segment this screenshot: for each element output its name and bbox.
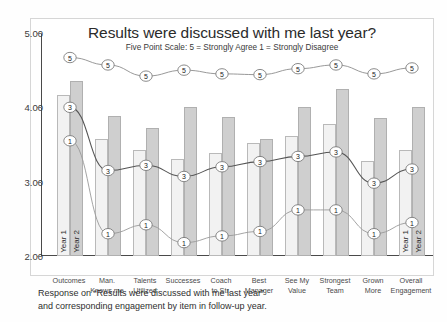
y-axis-line (41, 33, 42, 256)
chart-page: Results were discussed with me last year… (0, 0, 447, 322)
data-point-label: 3 (106, 168, 110, 175)
data-point-label: 1 (258, 228, 262, 235)
category-label: OverallEngagement (386, 276, 436, 296)
category-label-line-1: Grown (362, 276, 383, 285)
y-tick-mark (37, 182, 42, 183)
line-series-path (70, 107, 412, 183)
data-point-label: 5 (258, 72, 262, 79)
data-point-label: 5 (182, 67, 186, 74)
data-point-label: 3 (258, 159, 262, 166)
category-label-line-1: Coach (211, 276, 232, 285)
category-label-line-2: Engagement (386, 286, 436, 296)
plot-area: 5.004.003.002.00 Year 1Year 2Year 1Year … (51, 33, 431, 256)
category-label-line-1: Strongest (320, 276, 351, 285)
data-point-label: 3 (144, 162, 148, 169)
data-point-label: 3 (220, 164, 224, 171)
data-point-label: 1 (220, 233, 224, 240)
data-point-label: 1 (296, 207, 300, 214)
category-label-line-1: Best (252, 276, 266, 285)
data-point-label: 5 (144, 73, 148, 80)
caption-line-1: Response on “Results were discussed with… (38, 287, 267, 300)
data-point-label: 3 (296, 153, 300, 160)
data-point-label: 1 (334, 207, 338, 214)
line-series-path (70, 141, 412, 243)
data-point-label: 3 (410, 166, 414, 173)
data-point-label: 1 (106, 231, 110, 238)
category-label-line-1: Outcomes (53, 276, 86, 285)
line-series-layer: 555555555533333333331111111111 (51, 33, 431, 256)
data-point-label: 3 (68, 104, 72, 111)
data-point-label: 5 (68, 55, 72, 62)
data-point-label: 5 (106, 62, 110, 69)
data-point-label: 5 (220, 71, 224, 78)
category-label-line-1: Overall (400, 276, 423, 285)
data-point-label: 1 (372, 231, 376, 238)
data-point-label: 5 (372, 71, 376, 78)
data-point-label: 3 (334, 149, 338, 156)
chart-frame: Results were discussed with me last year… (30, 18, 434, 276)
data-point-label: 5 (296, 66, 300, 73)
data-point-label: 5 (334, 62, 338, 69)
caption-line-2: and corresponding engagement by item in … (38, 300, 267, 313)
data-point-label: 1 (182, 240, 186, 247)
figure-caption: Response on “Results were discussed with… (38, 287, 267, 313)
category-label-line-1: Talents (134, 276, 157, 285)
data-point-label: 1 (144, 222, 148, 229)
y-tick-mark (37, 107, 42, 108)
data-point-label: 3 (182, 173, 186, 180)
data-point-label: 5 (410, 65, 414, 72)
y-tick-mark (37, 256, 42, 257)
data-point-label: 1 (68, 138, 72, 145)
data-point-label: 1 (410, 220, 414, 227)
line-series-path (70, 58, 412, 77)
category-label-line-1: Man. (99, 276, 115, 285)
category-label-line-1: See My (285, 276, 309, 285)
data-point-label: 3 (372, 180, 376, 187)
y-tick-mark (37, 33, 42, 34)
